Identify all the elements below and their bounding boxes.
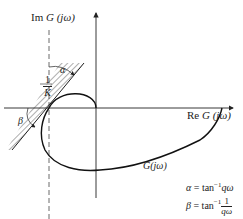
beta-equation: β = tan−11qω (186, 197, 232, 216)
imaginary-axis-label: Im G (jω) (31, 12, 75, 23)
beta-angle-label: β (18, 116, 23, 126)
nyquist-curve (41, 94, 222, 171)
critical-point-label: 1 K (43, 75, 52, 98)
real-axis-label: Re G (jω) (187, 110, 231, 121)
nyquist-curve-label: G(jω) (143, 161, 167, 171)
alpha-angle-label: α (60, 65, 65, 75)
alpha-equation: α = tan−1qω (186, 182, 234, 193)
